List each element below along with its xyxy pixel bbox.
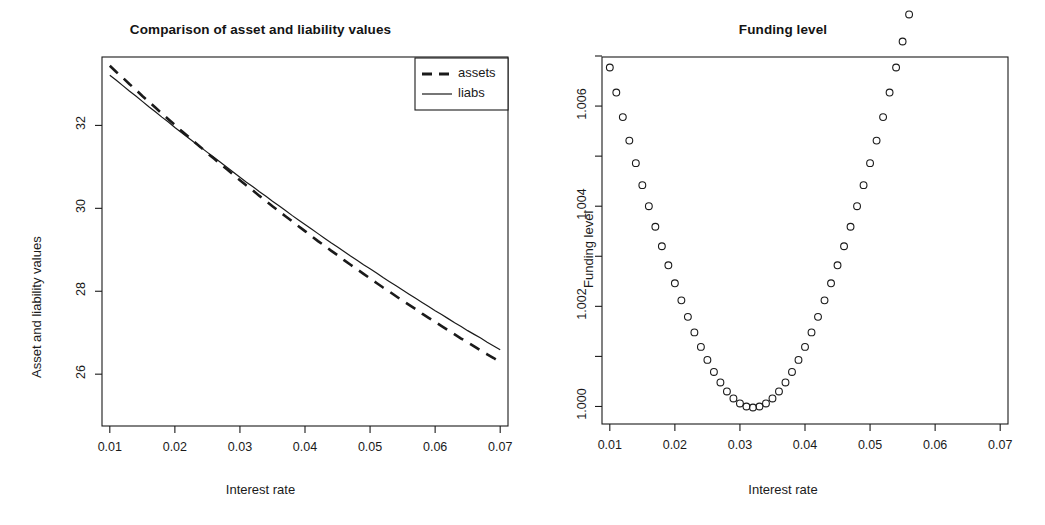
left-series-liabs	[110, 75, 500, 349]
data-point	[899, 38, 906, 45]
data-point	[828, 280, 835, 287]
data-point	[743, 403, 750, 410]
figure-canvas: Comparison of asset and liability values…	[0, 0, 1045, 525]
data-point	[717, 379, 724, 386]
data-point	[821, 297, 828, 304]
data-point	[860, 182, 867, 189]
right-y-tick-label: 1.002	[575, 280, 589, 328]
data-point	[886, 89, 893, 96]
data-point	[606, 64, 613, 71]
right-x-tick-label: 0.05	[842, 438, 898, 452]
data-point	[802, 343, 809, 350]
left-plot-frame	[102, 57, 508, 426]
data-point	[795, 357, 802, 364]
legend-label-assets: assets	[458, 65, 496, 80]
right-x-tick-label: 0.06	[907, 438, 963, 452]
left-x-tick-label: 0.04	[277, 440, 333, 454]
left-x-axis-title: Interest rate	[0, 482, 522, 497]
data-point	[619, 114, 626, 121]
right-x-tick-label: 0.07	[972, 438, 1028, 452]
data-point	[782, 379, 789, 386]
data-point	[737, 400, 744, 407]
left-x-tick-label: 0.07	[472, 440, 528, 454]
left-y-tick-label: 32	[74, 109, 88, 137]
right-y-tick-label: 1.004	[575, 180, 589, 228]
data-point	[815, 313, 822, 320]
right-plot-frame	[602, 57, 1008, 424]
right-x-tick-label: 0.01	[582, 438, 638, 452]
data-point	[684, 313, 691, 320]
data-point	[854, 203, 861, 210]
data-point	[724, 388, 731, 395]
panel-funding-level: Funding level Interest rate Funding leve…	[523, 0, 1045, 525]
data-point	[763, 400, 770, 407]
left-x-tick-label: 0.02	[147, 440, 203, 454]
right-x-tick-label: 0.03	[712, 438, 768, 452]
data-point	[678, 297, 685, 304]
data-point	[834, 262, 841, 269]
data-point	[750, 404, 757, 411]
data-point	[841, 243, 848, 250]
data-point	[880, 114, 887, 121]
data-point	[769, 395, 776, 402]
data-point	[873, 137, 880, 144]
right-x-axis-title: Interest rate	[522, 482, 1044, 497]
right-x-tick-label: 0.02	[647, 438, 703, 452]
right-x-tick-label: 0.04	[777, 438, 833, 452]
data-point	[906, 11, 913, 18]
data-point	[613, 89, 620, 96]
right-y-tick-label: 1.000	[575, 380, 589, 428]
data-point	[652, 223, 659, 230]
data-point	[671, 280, 678, 287]
data-point	[639, 182, 646, 189]
data-point	[645, 203, 652, 210]
data-point	[808, 329, 815, 336]
data-point	[658, 243, 665, 250]
legend-label-liabs: liabs	[458, 85, 485, 100]
left-x-tick-label: 0.06	[407, 440, 463, 454]
data-point	[867, 160, 874, 167]
data-point	[789, 369, 796, 376]
data-point	[626, 137, 633, 144]
left-y-tick-label: 26	[74, 358, 88, 386]
left-y-tick-label: 30	[74, 192, 88, 220]
panel-asset-liability: Comparison of asset and liability values…	[0, 0, 523, 525]
data-point	[698, 343, 705, 350]
data-point	[711, 369, 718, 376]
data-point	[893, 64, 900, 71]
left-x-tick-label: 0.03	[212, 440, 268, 454]
data-point	[847, 223, 854, 230]
right-y-tick-label: 1.006	[575, 80, 589, 128]
left-y-axis-title: Asset and liability values	[29, 236, 44, 378]
data-point	[691, 329, 698, 336]
data-point	[776, 388, 783, 395]
data-point	[632, 160, 639, 167]
data-point	[756, 403, 763, 410]
data-point	[704, 357, 711, 364]
left-y-tick-label: 28	[74, 275, 88, 303]
data-point	[665, 262, 672, 269]
left-x-tick-label: 0.01	[82, 440, 138, 454]
left-x-tick-label: 0.05	[342, 440, 398, 454]
data-point	[730, 395, 737, 402]
